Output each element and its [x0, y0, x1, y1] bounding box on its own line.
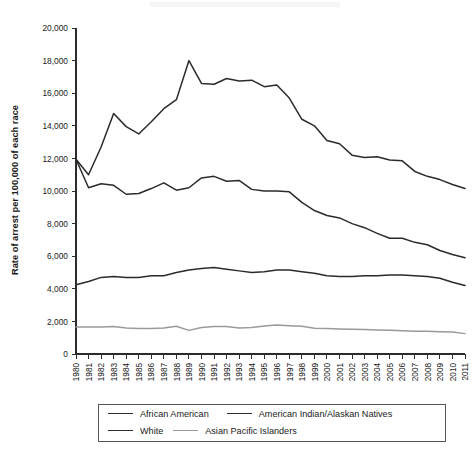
x-tick-label: 2011: [461, 363, 470, 381]
chart-legend: African AmericanAmerican Indian/Alaskan …: [98, 404, 446, 442]
x-tick-label: 2008: [424, 363, 433, 382]
x-tick-label: 1991: [210, 363, 219, 382]
y-tick-label: 8,000: [47, 219, 68, 229]
series-line-asian-pacific-islanders: [76, 325, 465, 334]
series-line-african-american: [76, 159, 465, 258]
series-line-american-indian-alaskan-natives: [76, 61, 465, 189]
y-tick-label: 20,000: [42, 23, 68, 33]
x-tick-label: 2006: [398, 363, 407, 382]
legend-line-swatch: [108, 413, 133, 414]
x-tick-label: 1993: [235, 363, 244, 382]
y-axis-ticks: 02,0004,0006,0008,00010,00012,00014,0001…: [42, 23, 76, 359]
x-tick-label: 1999: [311, 363, 320, 382]
x-tick-label: 1992: [223, 363, 232, 382]
x-axis-ticks: [76, 354, 465, 359]
x-tick-label: 2002: [348, 363, 357, 382]
x-tick-label: 1988: [173, 363, 182, 382]
line-chart-plot: Rate of arrest per 100,000 of each race …: [0, 0, 476, 451]
chart-container: Rate of arrest per 100,000 of each race …: [0, 0, 476, 451]
legend-line-swatch: [227, 413, 252, 414]
x-tick-label: 2005: [386, 363, 395, 382]
legend-item-white[interactable]: White: [108, 426, 163, 436]
legend-item-african-american[interactable]: African American: [108, 409, 209, 419]
x-tick-label: 1981: [85, 363, 94, 382]
x-tick-label: 2010: [449, 363, 458, 382]
y-tick-label: 4,000: [47, 284, 68, 294]
legend-row: WhiteAsian Pacific Islanders: [99, 422, 445, 439]
x-tick-label: 1985: [135, 363, 144, 382]
y-axis-title: Rate of arrest per 100,000 of each race: [10, 105, 20, 275]
y-tick-label: 12,000: [42, 154, 68, 164]
y-tick-label: 2,000: [47, 317, 68, 327]
x-tick-label: 1989: [185, 363, 194, 382]
y-axis-title-group: Rate of arrest per 100,000 of each race: [10, 105, 20, 275]
x-tick-label: 1986: [147, 363, 156, 382]
x-tick-label: 2004: [373, 363, 382, 382]
series-line-white: [76, 268, 465, 286]
legend-label: Asian Pacific Islanders: [205, 426, 296, 436]
x-tick-label: 1995: [260, 363, 269, 382]
x-tick-label: 2001: [336, 363, 345, 382]
legend-line-swatch: [173, 430, 198, 431]
x-axis-labels: 1980198119821983198419851986198719881989…: [72, 363, 470, 382]
x-tick-label: 2003: [361, 363, 370, 382]
legend-label: White: [140, 426, 163, 436]
y-tick-label: 10,000: [42, 186, 68, 196]
x-tick-label: 2000: [323, 363, 332, 382]
x-tick-label: 1987: [160, 363, 169, 382]
x-tick-label: 1990: [198, 363, 207, 382]
series-lines: [76, 61, 465, 334]
x-tick-label: 1980: [72, 363, 81, 382]
legend-item-american-indian-alaskan-natives[interactable]: American Indian/Alaskan Natives: [227, 409, 392, 419]
x-tick-label: 1984: [122, 363, 131, 382]
y-tick-label: 16,000: [42, 88, 68, 98]
legend-item-asian-pacific-islanders[interactable]: Asian Pacific Islanders: [173, 426, 296, 436]
legend-line-swatch: [108, 430, 133, 431]
x-tick-label: 2007: [411, 363, 420, 382]
x-tick-label: 1996: [273, 363, 282, 382]
legend-label: African American: [140, 409, 209, 419]
legend-label: American Indian/Alaskan Natives: [259, 409, 392, 419]
x-tick-label: 1983: [110, 363, 119, 382]
x-tick-label: 1997: [286, 363, 295, 382]
legend-row: African AmericanAmerican Indian/Alaskan …: [99, 405, 445, 422]
y-tick-label: 0: [63, 349, 68, 359]
x-tick-label: 1982: [97, 363, 106, 382]
x-tick-label: 2009: [436, 363, 445, 382]
x-tick-label: 1994: [248, 363, 257, 382]
y-tick-label: 6,000: [47, 251, 68, 261]
y-tick-label: 14,000: [42, 121, 68, 131]
x-tick-label: 1998: [298, 363, 307, 382]
y-tick-label: 18,000: [42, 56, 68, 66]
